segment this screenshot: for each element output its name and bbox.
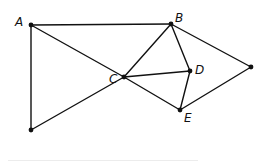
point-e: [178, 108, 183, 113]
segment-ep: [180, 67, 251, 110]
segment-bd: [171, 24, 190, 71]
geometry-diagram: ABCDE: [0, 0, 270, 162]
point-c: [122, 75, 127, 80]
point-label-d: D: [195, 64, 204, 76]
point-label-e: E: [184, 112, 192, 124]
divider: [8, 160, 198, 161]
point-label-c: C: [109, 73, 117, 85]
segment-ce: [124, 77, 180, 110]
point-label-b: B: [175, 12, 183, 24]
segment-ab: [31, 24, 171, 25]
point-b: [169, 22, 174, 27]
segment-bp: [171, 24, 251, 67]
segment-cb: [124, 24, 171, 77]
point-d: [188, 69, 193, 74]
point-a: [29, 23, 34, 28]
segment-cd: [124, 71, 190, 77]
point-p: [249, 65, 254, 70]
point-q: [29, 128, 34, 133]
point-label-a: A: [15, 16, 23, 28]
diagram-canvas: [0, 0, 270, 162]
segment-ac: [31, 25, 124, 77]
